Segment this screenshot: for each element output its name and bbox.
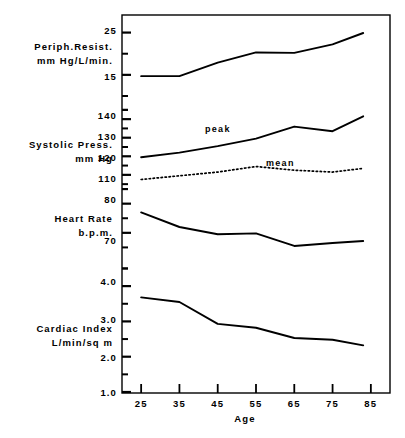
series-line-heart-rate — [141, 212, 363, 246]
xtick-label-65: 65 — [279, 398, 309, 409]
series-line-peak — [141, 116, 363, 157]
ytick-periph-25: 25 — [77, 26, 117, 36]
ytick-periph-15: 15 — [77, 72, 117, 82]
ytick-systolic-110: 110 — [73, 174, 117, 184]
y-axis-ticks — [122, 33, 131, 392]
chart-figure: Periph.Resist. mm Hg/L/min. 25 15 Systol… — [0, 0, 405, 438]
ytick-hr-80: 80 — [77, 195, 117, 205]
data-series-group — [141, 33, 363, 345]
series-line-peripheral-resistance — [141, 33, 363, 76]
series-line-cardiac-index — [141, 297, 363, 345]
plot-frame-rect — [122, 15, 390, 393]
series-annotation-peak: peak — [205, 124, 231, 134]
ytick-systolic-130: 130 — [73, 132, 117, 142]
panel-label-cardiac-index-line2: L/min/sq m — [0, 336, 113, 350]
ytick-hr-70: 70 — [77, 236, 117, 246]
ytick-ci-10: 1.0 — [73, 388, 117, 398]
panel-label-heart-rate-line1: Heart Rate — [54, 213, 113, 224]
xtick-label-45: 45 — [203, 398, 233, 409]
xtick-label-85: 85 — [356, 398, 386, 409]
xtick-label-55: 55 — [241, 398, 271, 409]
ytick-ci-30: 3.0 — [73, 315, 117, 325]
plot-frame — [122, 15, 390, 393]
panel-label-cardiac-index: Cardiac Index L/min/sq m — [0, 322, 113, 350]
panel-label-periph-resist-line2: mm Hg/L/min. — [0, 54, 113, 68]
x-axis-title: Age — [215, 413, 275, 424]
ytick-systolic-120: 120 — [73, 153, 117, 163]
series-line-mean — [141, 167, 363, 180]
xtick-label-75: 75 — [318, 398, 348, 409]
xtick-label-35: 35 — [164, 398, 194, 409]
ytick-ci-20: 2.0 — [73, 353, 117, 363]
x-axis-ticks — [141, 384, 371, 393]
ytick-systolic-140: 140 — [73, 111, 117, 121]
xtick-label-25: 25 — [126, 398, 156, 409]
panel-label-periph-resist: Periph.Resist. mm Hg/L/min. — [0, 40, 113, 68]
series-annotation-mean: mean — [266, 158, 295, 168]
ytick-ci-40: 4.0 — [73, 277, 117, 287]
panel-label-periph-resist-line1: Periph.Resist. — [34, 41, 113, 52]
